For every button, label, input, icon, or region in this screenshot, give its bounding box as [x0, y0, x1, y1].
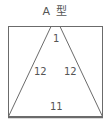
label-right: 12: [64, 67, 77, 77]
label-top: 1: [53, 34, 59, 44]
label-left: 12: [34, 67, 47, 77]
label-bottom: 11: [50, 102, 63, 112]
